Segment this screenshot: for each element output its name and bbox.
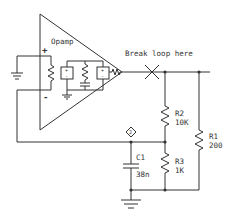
internal-ground-icon (62, 90, 72, 99)
r1-ref: R1 (209, 132, 218, 141)
ground-icon (121, 190, 141, 208)
svg-text:-: - (65, 73, 68, 79)
break-loop-label: Break loop here (125, 49, 193, 58)
svg-text:-: - (101, 73, 104, 79)
r2-value: 10K (175, 118, 189, 127)
resistor-r3 (161, 142, 169, 190)
feedback-wire (17, 90, 165, 142)
input-ground-icon (11, 56, 51, 79)
output-resistor (109, 69, 122, 75)
probe-marker-icon: 2 (126, 127, 136, 137)
r3-value: 1K (175, 166, 185, 175)
input-resistor (40, 56, 54, 90)
c1-value: 38n (136, 170, 150, 179)
circuit-schematic: Opamp + - + - + - (0, 0, 234, 224)
opamp-minus: - (43, 92, 48, 102)
resistor-r1 (195, 72, 203, 190)
opamp-label: Opamp (51, 37, 74, 46)
r2-ref: R2 (175, 109, 184, 118)
opamp-plus: + (42, 45, 48, 55)
internal-rc (80, 61, 90, 90)
r1-value: 200 (209, 141, 223, 150)
svg-text:2: 2 (129, 129, 132, 135)
c1-ref: C1 (136, 153, 145, 162)
junction (163, 188, 166, 191)
r3-ref: R3 (175, 157, 184, 166)
capacitor-c1 (123, 142, 139, 190)
resistor-r2 (161, 72, 169, 142)
